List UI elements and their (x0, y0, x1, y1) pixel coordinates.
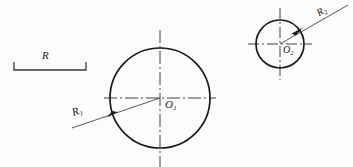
scale-bar-label: R (42, 50, 49, 61)
technical-drawing-canvas: R O1 R1 O2 R2 (0, 0, 353, 167)
large-circle-group (72, 30, 216, 167)
large-circle-radius-leader (72, 98, 160, 128)
scale-bar-group (14, 62, 86, 70)
large-circle-center-subscript: 1 (173, 104, 176, 111)
large-circle-center-letter: O (165, 98, 173, 110)
small-circle-radius-leader (280, 5, 348, 44)
small-circle-center-subscript: 2 (290, 49, 293, 56)
drawing-vector-layer (0, 0, 353, 167)
scale-bar-bracket (14, 62, 86, 70)
small-circle-center-label: O2 (283, 45, 293, 55)
scale-bar-label-text: R (42, 49, 49, 61)
small-circle-group (248, 5, 348, 80)
large-circle-radius-arrowhead (107, 111, 118, 118)
large-circle-center-label: O1 (165, 99, 176, 110)
